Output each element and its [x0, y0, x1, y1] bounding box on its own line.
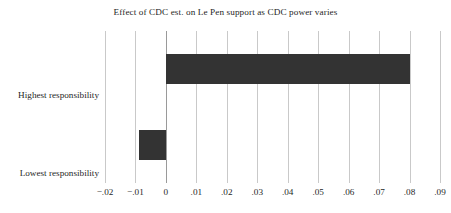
x-tick-label-8: .06	[343, 186, 354, 198]
plot-area	[105, 31, 440, 183]
x-axis-tick-labels: −.02−.010.01.02.03.04.05.06.07.08.09	[105, 186, 440, 202]
gridline-11	[440, 31, 441, 183]
x-tick-label-6: .04	[282, 186, 293, 198]
gridline-1	[135, 31, 136, 183]
x-tick-label-5: .03	[252, 186, 263, 198]
bar-chart: Effect of CDC est. on Le Pen support as …	[0, 0, 451, 213]
x-tick-label-2: 0	[164, 186, 169, 198]
x-tick-label-10: .08	[404, 186, 415, 198]
x-tick-label-7: .05	[312, 186, 323, 198]
x-tick-label-4: .02	[221, 186, 232, 198]
bar-0	[166, 54, 410, 84]
gridline-10	[410, 31, 411, 183]
bar-1	[139, 130, 166, 160]
gridline-0	[105, 31, 106, 183]
chart-title: Effect of CDC est. on Le Pen support as …	[0, 6, 451, 18]
x-tick-label-11: .09	[434, 186, 445, 198]
x-tick-label-0: −.02	[97, 186, 114, 198]
x-tick-label-3: .01	[191, 186, 202, 198]
x-tick-label-1: −.01	[127, 186, 144, 198]
y-category-label-1: Lowest responsibility	[0, 168, 99, 179]
y-category-label-0: Highest responsibility	[0, 90, 99, 101]
x-tick-label-9: .07	[373, 186, 384, 198]
y-axis-category-labels: Highest responsibility Lowest responsibi…	[0, 31, 99, 183]
